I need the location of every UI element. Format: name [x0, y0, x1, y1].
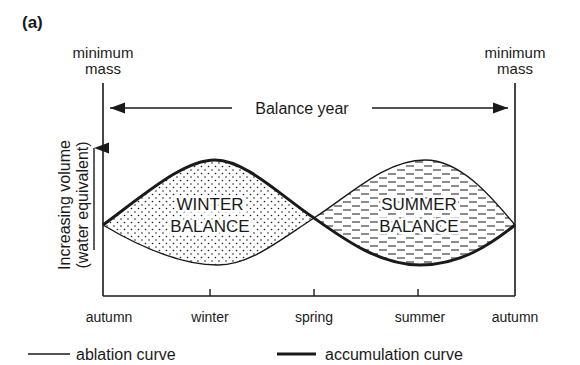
x-label-summer: summer [395, 309, 446, 325]
legend-accumulation-label: accumulation curve [325, 346, 463, 363]
x-label-spring: spring [295, 309, 333, 325]
summer-label-line2: BALANCE [379, 217, 458, 236]
x-label-autumn-end: autumn [492, 309, 539, 325]
right-minimum-mass-line1: minimum [485, 44, 546, 61]
x-label-autumn-start: autumn [86, 309, 133, 325]
left-minimum-mass-line1: minimum [73, 44, 134, 61]
right-minimum-mass-line2: mass [497, 60, 533, 77]
winter-label-line2: BALANCE [170, 217, 249, 236]
balance-year-label: Balance year [255, 100, 349, 117]
x-label-winter: winter [190, 309, 229, 325]
legend-ablation-label: ablation curve [76, 346, 176, 363]
figure-label: (a) [22, 13, 43, 32]
y-axis-label-line2: (water equivalent) [74, 141, 91, 268]
glacier-balance-diagram: (a) minimum mass minimum mass Balance ye… [0, 0, 580, 365]
y-axis-label-line1: Increasing volume [56, 140, 73, 270]
left-minimum-mass-line2: mass [85, 60, 121, 77]
summer-label-line1: SUMMER [381, 195, 457, 214]
winter-label-line1: WINTER [176, 195, 243, 214]
